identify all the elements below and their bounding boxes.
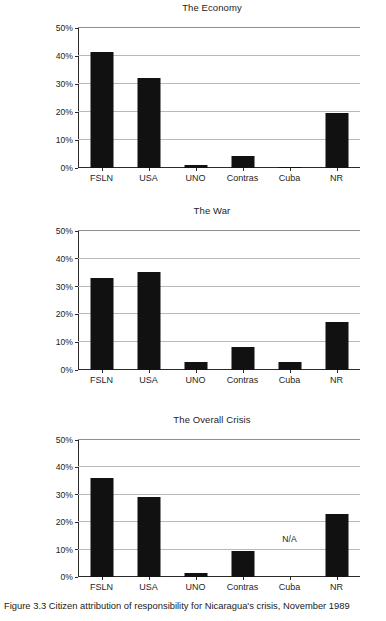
y-tick-label: 30%: [56, 79, 73, 89]
bar: [325, 322, 348, 370]
y-tick-label: 50%: [56, 435, 73, 445]
y-tick-label: 50%: [56, 23, 73, 33]
bar-group: NR: [313, 440, 360, 577]
y-tick-label: 10%: [56, 545, 73, 555]
y-tick-label: 40%: [56, 254, 73, 264]
x-tick-label: Contras: [227, 173, 259, 183]
x-tick-mark: [196, 168, 197, 171]
y-tick-label: 20%: [56, 309, 73, 319]
na-annotation: N/A: [282, 534, 296, 544]
x-tick-label: Contras: [227, 375, 259, 385]
y-tick-label: 40%: [56, 51, 73, 61]
bar-group: CubaN/A: [266, 440, 313, 577]
y-tick-label: 40%: [56, 462, 73, 472]
bar-group: Contras: [219, 231, 266, 370]
x-tick-label: USA: [139, 582, 158, 592]
bar: [278, 362, 301, 370]
figure-caption: Figure 3.3 Citizen attribution of respon…: [4, 600, 382, 611]
bar-group: NR: [313, 231, 360, 370]
bar-group: NR: [313, 28, 360, 168]
x-tick-mark: [196, 370, 197, 373]
x-tick-mark: [243, 168, 244, 171]
y-tick-label: 50%: [56, 226, 73, 236]
bar: [90, 478, 113, 577]
plot-area: 0%10%20%30%40%50% FSLNUSAUNOContrasCubaN…: [78, 231, 360, 370]
bar-group: UNO: [172, 28, 219, 168]
bar-group: UNO: [172, 440, 219, 577]
bar-group: USA: [125, 440, 172, 577]
x-tick-mark: [196, 577, 197, 580]
bar: [325, 113, 348, 168]
x-tick-label: USA: [139, 173, 158, 183]
x-tick-mark: [149, 577, 150, 580]
chart-panel-the-economy: The Economy 0%10%20%30%40%50% FSLNUSAUNO…: [0, 0, 386, 200]
x-tick-mark: [337, 370, 338, 373]
bar: [231, 551, 254, 577]
chart-title: The War: [0, 205, 386, 216]
bar-group: USA: [125, 231, 172, 370]
bar: [90, 52, 113, 168]
bar-group: Contras: [219, 28, 266, 168]
x-tick-mark: [149, 168, 150, 171]
x-tick-label: FSLN: [90, 375, 113, 385]
bar-series: FSLNUSAUNOContrasCubaNR: [78, 231, 360, 370]
x-tick-mark: [337, 577, 338, 580]
y-tick-label: 0%: [61, 572, 73, 582]
x-tick-mark: [243, 370, 244, 373]
x-tick-label: UNO: [186, 173, 206, 183]
x-tick-mark: [102, 168, 103, 171]
plot-area: 0%10%20%30%40%50% FSLNUSAUNOContrasCubaN…: [78, 28, 360, 168]
bar-group: UNO: [172, 231, 219, 370]
x-tick-label: NR: [330, 582, 343, 592]
plot-area: 0%10%20%30%40%50% FSLNUSAUNOContrasCubaN…: [78, 440, 360, 577]
bar: [184, 362, 207, 370]
chart-panel-the-war: The War 0%10%20%30%40%50% FSLNUSAUNOCont…: [0, 203, 386, 403]
x-tick-label: FSLN: [90, 173, 113, 183]
y-tick-label: 0%: [61, 365, 73, 375]
figure-caption-number: Figure 3.3: [4, 600, 46, 611]
bar-series: FSLNUSAUNOContrasCubaNR: [78, 28, 360, 168]
bar-group: Cuba: [266, 231, 313, 370]
x-tick-mark: [337, 168, 338, 171]
x-tick-label: FSLN: [90, 582, 113, 592]
bar: [137, 78, 160, 168]
bar-group: Cuba: [266, 28, 313, 168]
x-tick-label: Contras: [227, 582, 259, 592]
x-tick-mark: [149, 370, 150, 373]
x-tick-label: USA: [139, 375, 158, 385]
x-tick-label: UNO: [186, 582, 206, 592]
x-tick-mark: [102, 370, 103, 373]
chart-panel-the-overall-crisis: The Overall Crisis 0%10%20%30%40%50% FSL…: [0, 412, 386, 592]
bar: [325, 514, 348, 577]
x-tick-label: Cuba: [279, 173, 301, 183]
x-tick-mark: [290, 577, 291, 580]
y-tick-label: 0%: [61, 163, 73, 173]
x-tick-mark: [290, 370, 291, 373]
chart-title: The Economy: [0, 2, 386, 13]
x-tick-label: NR: [330, 375, 343, 385]
x-tick-mark: [243, 577, 244, 580]
bar: [90, 278, 113, 370]
y-tick-label: 10%: [56, 337, 73, 347]
bar-group: FSLN: [78, 231, 125, 370]
y-tick-label: 10%: [56, 135, 73, 145]
x-tick-mark: [102, 577, 103, 580]
x-tick-mark: [290, 168, 291, 171]
y-tick-label: 30%: [56, 490, 73, 500]
bar-series: FSLNUSAUNOContrasCubaN/ANR: [78, 440, 360, 577]
y-tick-label: 30%: [56, 282, 73, 292]
y-tick-label: 20%: [56, 107, 73, 117]
x-tick-label: UNO: [186, 375, 206, 385]
bar: [231, 347, 254, 370]
bar-group: FSLN: [78, 28, 125, 168]
bar-group: Contras: [219, 440, 266, 577]
chart-title: The Overall Crisis: [0, 414, 386, 425]
x-tick-label: Cuba: [279, 375, 301, 385]
x-tick-label: NR: [330, 173, 343, 183]
figure-caption-text: Citizen attribution of responsibility fo…: [49, 600, 350, 611]
bar: [231, 156, 254, 168]
bar: [137, 272, 160, 370]
bar-group: USA: [125, 28, 172, 168]
bar: [137, 497, 160, 577]
bar-group: FSLN: [78, 440, 125, 577]
